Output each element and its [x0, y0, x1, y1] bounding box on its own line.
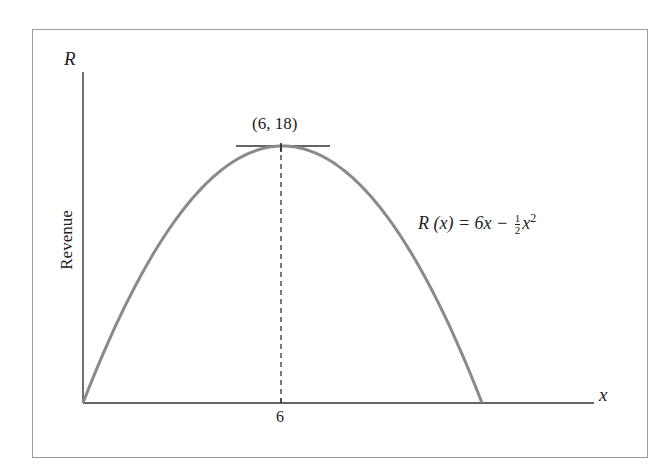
y-axis-title: Revenue	[57, 210, 77, 269]
revenue-plot	[0, 0, 668, 475]
y-axis-variable-label: R	[64, 48, 76, 70]
fraction-denominator: 2	[515, 225, 521, 236]
formula-lhs: R (x) = 6x −	[418, 213, 508, 233]
x-tick-label-6: 6	[276, 408, 284, 426]
revenue-curve	[83, 146, 482, 403]
formula-label: R (x) = 6x − 1 2 x2	[418, 211, 536, 236]
vertex-label: (6, 18)	[252, 114, 297, 134]
formula-fraction: 1 2	[515, 213, 521, 236]
x-axis-variable-label: x	[599, 384, 607, 406]
formula-exponent: 2	[530, 211, 536, 225]
